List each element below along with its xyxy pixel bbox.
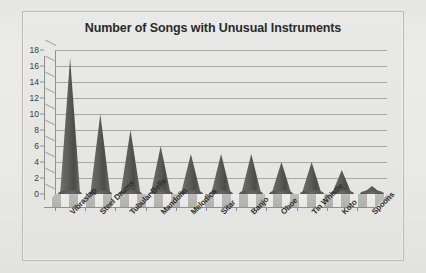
bar-slot (266, 50, 296, 194)
bar-slot (115, 50, 145, 194)
y-axis-tick-mark (40, 98, 44, 99)
x-label-slot: Spoons (357, 208, 387, 273)
y-axis-tick-mark (40, 82, 44, 83)
cone-bar[interactable] (302, 162, 322, 194)
x-axis-tick-mark (176, 207, 177, 211)
x-axis-tick-mark (236, 207, 237, 211)
cone-bar[interactable] (90, 114, 110, 194)
bar-slot (327, 50, 357, 194)
x-label-slot: Oboe (266, 208, 296, 273)
x-label-slot: Melodica (176, 208, 206, 273)
x-label-slot: Sitar (206, 208, 236, 273)
x-axis-tick-mark (297, 207, 298, 211)
x-axis-tick-mark (55, 207, 56, 211)
y-axis-tick-label: 14 (30, 77, 39, 87)
y-axis-tick-label: 2 (34, 173, 39, 183)
y-axis-tick-mark (40, 50, 44, 51)
x-axis-tick-mark (206, 207, 207, 211)
x-label-slot: Koto (327, 208, 357, 273)
chart-title: Number of Songs with Unusual Instruments (23, 21, 403, 35)
y-axis-tick-label: 16 (30, 61, 39, 71)
y-axis-front-line (44, 56, 45, 200)
y-axis-tick-label: 4 (34, 157, 39, 167)
y-axis-tick-label: 0 (34, 189, 39, 199)
x-axis-tick-mark (115, 207, 116, 211)
cone-bar[interactable] (271, 162, 291, 194)
y-axis-tick-mark (40, 162, 44, 163)
cone-bar[interactable] (241, 154, 261, 194)
y-axis-tick-mark (40, 146, 44, 147)
cone-bar[interactable] (60, 58, 80, 194)
plot-area: 181614121086420 (55, 50, 387, 194)
y-axis-tick-label: 18 (30, 45, 39, 55)
y-axis-tick-label: 8 (34, 125, 39, 135)
x-axis-labels-group: VibraslapSteel DrumsTubular BellsMandoli… (55, 208, 387, 273)
bar-slot (236, 50, 266, 194)
y-axis-tick-mark (40, 114, 44, 115)
x-label-slot: Vibraslap (55, 208, 85, 273)
y-axis-tick-mark (40, 194, 44, 195)
x-label-slot: Mandolin (146, 208, 176, 273)
cone-body (90, 114, 110, 194)
x-axis-tick-mark (327, 207, 328, 211)
bar-slot (297, 50, 327, 194)
x-axis-tick-mark (266, 207, 267, 211)
cone-bar[interactable] (362, 186, 382, 194)
cone-body (241, 154, 261, 194)
x-label-slot: Banjo (236, 208, 266, 273)
bar-slot (357, 50, 387, 194)
chart-frame: Number of Songs with Unusual Instruments… (22, 11, 404, 261)
bars-group (55, 50, 387, 194)
x-axis-tick-mark (357, 207, 358, 211)
y-axis-tick-label: 10 (30, 109, 39, 119)
bar-slot (55, 50, 85, 194)
y-axis-tick-mark (40, 66, 44, 67)
bar-slot (206, 50, 236, 194)
x-label-slot: Steel Drums (85, 208, 115, 273)
bar-slot (85, 50, 115, 194)
y-axis-tick-mark (40, 178, 44, 179)
x-axis-tick-mark (85, 207, 86, 211)
x-axis-tick-mark (146, 207, 147, 211)
scanned-page-background: Number of Songs with Unusual Instruments… (0, 0, 426, 273)
y-axis-tick-label: 12 (30, 93, 39, 103)
bar-slot (146, 50, 176, 194)
y-axis-tick-label: 6 (34, 141, 39, 151)
y-axis-tick-mark (40, 130, 44, 131)
x-label-slot: Tin Whistle (297, 208, 327, 273)
bar-slot (176, 50, 206, 194)
x-label-slot: Tubular Bells (115, 208, 145, 273)
cone-body (60, 58, 80, 194)
